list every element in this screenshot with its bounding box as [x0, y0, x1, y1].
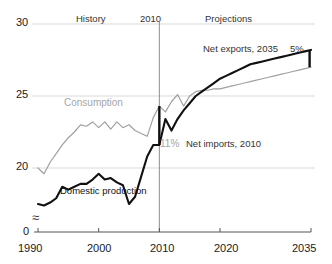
- series-line-domestic-production: [38, 50, 311, 206]
- net-imports-value: 11%: [160, 139, 179, 149]
- net-imports-annotation: Net imports, 2010: [186, 139, 261, 149]
- chart-plot-area: [0, 0, 332, 264]
- y-tick-label-25: 25: [16, 89, 28, 100]
- series-label-domestic-production: Domestic production: [60, 186, 147, 196]
- axis-break-icon: ≈: [32, 211, 39, 224]
- y-tick-label-0: 0: [23, 226, 29, 237]
- energy-outlook-chart: 30 25 20 0 ≈ 1990 2000 2010 2020 2035 Hi…: [0, 0, 332, 264]
- projections-label: Projections: [205, 14, 252, 24]
- divider-year-label: 2010: [140, 14, 161, 24]
- net-exports-annotation: Net exports, 2035: [203, 44, 278, 54]
- series-label-consumption: Consumption: [64, 98, 123, 108]
- y-tick-label-20: 20: [16, 161, 28, 172]
- history-label: History: [76, 14, 106, 24]
- net-exports-value: 5%: [290, 44, 304, 54]
- x-tick-label-1990: 1990: [18, 243, 42, 254]
- x-tick-label-2010: 2010: [150, 243, 174, 254]
- x-tick-label-2020: 2020: [214, 243, 238, 254]
- y-tick-label-30: 30: [16, 17, 28, 28]
- series-line-consumption: [38, 67, 311, 174]
- x-tick-label-2000: 2000: [87, 243, 111, 254]
- x-tick-label-2035: 2035: [292, 243, 316, 254]
